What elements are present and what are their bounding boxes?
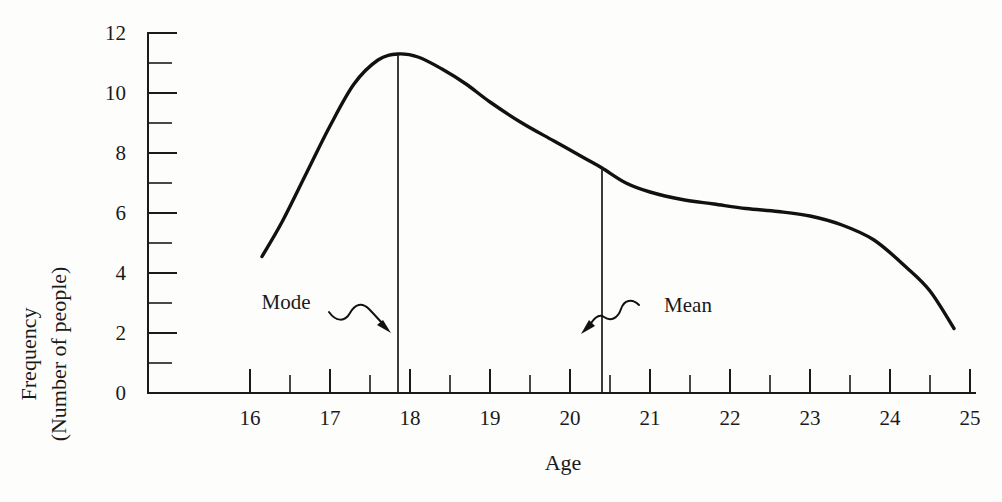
y-tick-label-2: 2 (86, 323, 126, 344)
x-axis-title: Age (545, 450, 582, 476)
x-tick-label-20: 20 (560, 408, 581, 429)
x-axis-minor-ticks (290, 375, 930, 393)
x-tick-label-21: 21 (640, 408, 661, 429)
y-tick-label-8: 8 (86, 143, 126, 164)
y-tick-label-0: 0 (86, 383, 126, 404)
x-tick-label-25: 25 (960, 408, 981, 429)
mode-annotation-label: Mode (262, 290, 311, 315)
x-tick-label-22: 22 (720, 408, 741, 429)
y-axis-title: Frequency (Number of people) (14, 251, 74, 451)
x-tick-label-17: 17 (320, 408, 341, 429)
y-tick-label-4: 4 (86, 263, 126, 284)
x-tick-label-19: 19 (480, 408, 501, 429)
y-axis-title-line2: (Number of people) (46, 254, 72, 454)
x-tick-label-23: 23 (800, 408, 821, 429)
distribution-curve (262, 54, 954, 329)
y-axis-title-line1: Frequency (16, 269, 42, 439)
y-tick-label-10: 10 (86, 83, 126, 104)
x-tick-label-24: 24 (880, 408, 901, 429)
mean-arrow-icon (581, 301, 639, 334)
chart-canvas (0, 0, 1002, 502)
mean-annotation-label: Mean (664, 293, 712, 318)
x-tick-label-16: 16 (240, 408, 261, 429)
x-tick-label-18: 18 (400, 408, 421, 429)
mode-arrow-icon (329, 305, 391, 333)
chart-figure: 12 10 8 6 4 2 0 16 17 18 19 20 21 22 23 … (0, 0, 1002, 502)
y-axis-major-ticks (148, 33, 177, 393)
y-tick-label-12: 12 (86, 23, 126, 44)
y-tick-label-6: 6 (86, 203, 126, 224)
